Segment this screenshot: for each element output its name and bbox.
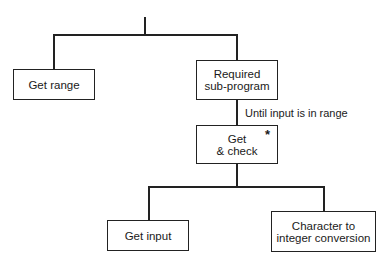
iteration-star-icon: *: [265, 130, 270, 140]
node-label-line2: integer conversion: [277, 232, 371, 244]
node-label: Get range: [28, 79, 79, 91]
top-branch-line: [53, 34, 237, 36]
root-stem-line: [144, 17, 146, 35]
left-drop-line: [53, 34, 55, 69]
node-get-range: Get range: [13, 69, 95, 100]
node-label-line2: & check: [217, 145, 258, 157]
loop-connector-line: [236, 99, 238, 125]
loop-condition-label: Until input is in range: [245, 107, 348, 119]
node-label: Get input: [125, 230, 172, 242]
node-get-input: Get input: [107, 220, 189, 251]
node-label-line2: sub-program: [204, 80, 269, 92]
right-drop-line: [236, 34, 238, 60]
char-drop-line: [323, 186, 325, 211]
node-label-line1: Required: [214, 68, 261, 80]
bottom-branch-line: [148, 186, 325, 188]
node-required-sub-program: Required sub-program: [196, 60, 278, 100]
node-label-line1: Get: [228, 133, 247, 145]
check-stem-line: [236, 163, 238, 187]
node-label-line1: Character to: [292, 220, 355, 232]
node-char-to-int: Character to integer conversion: [271, 211, 376, 252]
get-input-drop-line: [148, 186, 150, 220]
